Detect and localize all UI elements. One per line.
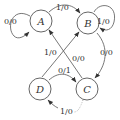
state-B: B <box>77 12 99 34</box>
label-C-A: 0/0 <box>72 54 85 63</box>
label-C-D: 1/0 <box>60 107 73 116</box>
state-D: D <box>29 78 51 100</box>
label-D-B: 1/0 <box>44 48 57 57</box>
state-diagram: A B C D 0/0 1/0 1/0 0/0 1/0 0/0 0/1 1/0 <box>0 0 120 120</box>
state-diagram-svg: A B C D 0/0 1/0 1/0 0/0 1/0 0/0 0/1 1/0 <box>0 0 120 120</box>
state-C: C <box>76 78 98 100</box>
label-A-B: 1/0 <box>56 3 69 12</box>
transition-C-D-tail <box>74 100 83 112</box>
label-B-C: 0/0 <box>100 48 113 57</box>
state-D-label: D <box>35 84 44 95</box>
state-B-label: B <box>83 18 91 29</box>
state-C-label: C <box>83 84 91 95</box>
state-A: A <box>30 10 52 32</box>
label-A-A: 0/0 <box>4 17 17 26</box>
transition-C-D <box>48 100 58 108</box>
label-B-B: 1/0 <box>97 17 110 26</box>
state-A-label: A <box>36 16 44 27</box>
label-D-C: 0/1 <box>58 66 71 75</box>
transition-D-C <box>49 74 76 82</box>
